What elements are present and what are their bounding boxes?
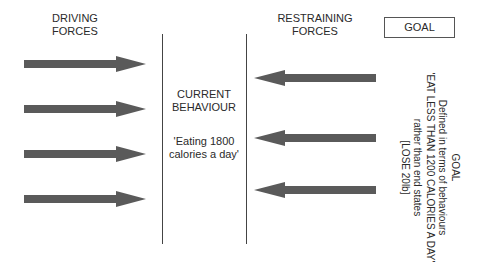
goal-detail-rotated: GOAL Defined in terms of behaviours 'EAT… xyxy=(396,70,461,265)
restraining-arrow-icon xyxy=(254,182,376,198)
driving-arrow-icon xyxy=(24,101,146,117)
driving-arrow-icon xyxy=(24,56,146,72)
restraining-arrow-icon xyxy=(254,130,376,146)
driving-arrow-icon xyxy=(24,146,146,162)
goal-detail-heading: GOAL xyxy=(448,70,461,265)
goal-detail-line: Defined in terms of behaviours xyxy=(436,70,449,265)
restraining-arrow-icon xyxy=(254,70,376,86)
goal-detail-line: rather than end states xyxy=(411,70,424,265)
goal-detail-line: [LOSE 20lb] xyxy=(398,70,411,265)
driving-arrow-icon xyxy=(24,191,146,207)
force-field-diagram: DRIVING FORCES RESTRAINING FORCES GOAL C… xyxy=(0,0,482,265)
goal-detail-line: 'EAT LESS THAN 1200 CALORIES A DAY' xyxy=(423,70,436,265)
